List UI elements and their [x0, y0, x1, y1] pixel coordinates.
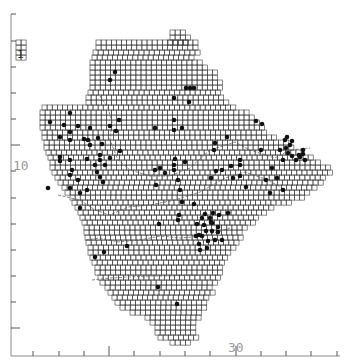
grid-cell [167, 160, 172, 165]
grid-cell [100, 265, 105, 270]
grid-cell [190, 105, 195, 110]
grid-cell [221, 210, 226, 215]
grid-cell [261, 170, 266, 175]
grid-cell [71, 115, 76, 120]
grid-cell [161, 280, 166, 285]
grid-cell [88, 90, 93, 95]
grid-cell [263, 140, 268, 145]
grid-cell [185, 245, 190, 250]
grid-cell [256, 200, 261, 205]
grid-cell [171, 225, 176, 230]
grid-cell [55, 115, 60, 120]
grid-cell [103, 275, 108, 280]
grid-cell [150, 320, 155, 325]
grid-cell [158, 335, 163, 340]
grid-cell [66, 125, 71, 130]
grid-cell [148, 295, 153, 300]
grid-cell [149, 130, 154, 135]
grid-cell [295, 190, 300, 195]
grid-cell [140, 310, 145, 315]
grid-cell [173, 45, 178, 50]
grid-cell [48, 155, 53, 160]
grid-cell [81, 110, 86, 115]
grid-cell [276, 200, 281, 205]
record-dot [254, 119, 259, 124]
record-dot [183, 160, 188, 165]
grid-cell [177, 85, 182, 90]
grid-cell [87, 220, 92, 225]
grid-cell [274, 190, 279, 195]
grid-cell [216, 155, 221, 160]
grid-cell [166, 300, 171, 305]
grid-cell [239, 115, 244, 120]
grid-cell [173, 295, 178, 300]
grid-cell [228, 205, 233, 210]
grid-cell [96, 190, 101, 195]
grid-cell [129, 250, 134, 255]
grid-cell [96, 125, 101, 130]
grid-cell [171, 310, 176, 315]
grid-cell [168, 150, 173, 155]
grid-cell [106, 110, 111, 115]
grid-cell [162, 165, 167, 170]
grid-cell [141, 60, 146, 65]
grid-cell [243, 215, 248, 220]
grid-cell [103, 200, 108, 205]
grid-cell [238, 205, 243, 210]
grid-cell [104, 225, 109, 230]
grid-cell [250, 150, 255, 155]
grid-cell [313, 180, 318, 185]
grid-cell [61, 150, 66, 155]
grid-cell [66, 150, 71, 155]
grid-cell [161, 270, 166, 275]
grid-cell [274, 160, 279, 165]
grid-cell [189, 55, 194, 60]
grid-cell [115, 225, 120, 230]
grid-cell [238, 215, 243, 220]
grid-cell [242, 155, 247, 160]
grid-cell [197, 145, 202, 150]
grid-cell [108, 250, 113, 255]
grid-cell [90, 215, 95, 220]
grid-cell [178, 160, 183, 165]
grid-cell [96, 195, 101, 200]
grid-cell [170, 30, 175, 35]
grid-cell [127, 115, 132, 120]
grid-cell [202, 300, 207, 305]
grid-cell [146, 280, 151, 285]
grid-cell [55, 175, 60, 180]
grid-cell [212, 85, 217, 90]
record-dot [114, 129, 119, 134]
grid-cell [195, 210, 200, 215]
grid-cell [208, 205, 213, 210]
grid-cell [218, 160, 223, 165]
grid-cell [194, 335, 199, 340]
grid-cell [74, 155, 79, 160]
grid-cell [139, 170, 144, 175]
grid-cell [242, 180, 247, 185]
grid-cell [113, 105, 118, 110]
grid-cell [113, 50, 118, 55]
grid-cell [200, 275, 205, 280]
grid-cell [241, 210, 246, 215]
grid-cell [129, 90, 134, 95]
grid-cell [95, 270, 100, 275]
grid-cell [87, 150, 92, 155]
grid-cell [44, 140, 49, 145]
grid-cell [163, 150, 168, 155]
grid-cell [142, 45, 147, 50]
grid-cell [197, 270, 202, 275]
grid-cell [102, 150, 107, 155]
grid-cell [191, 155, 196, 160]
grid-cell [157, 110, 162, 115]
grid-cell [169, 290, 174, 295]
grid-cell [78, 170, 83, 175]
grid-cell [170, 210, 175, 215]
grid-cell [268, 145, 273, 150]
grid-cell [182, 60, 187, 65]
grid-cell [146, 305, 151, 310]
grid-cell [253, 145, 258, 150]
grid-cell [72, 150, 77, 155]
grid-cell [246, 135, 251, 140]
grid-cell [152, 110, 157, 115]
